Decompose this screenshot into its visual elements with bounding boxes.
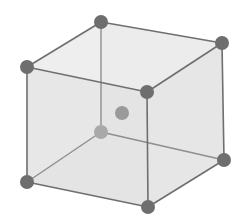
corner-atom-bottom-front-left [20,175,34,189]
corner-atom-top-back-left [94,15,108,29]
corner-atom-bottom-back-right [217,153,231,167]
corner-atom-top-front-right [140,85,154,99]
cube-edge [147,92,148,207]
center-atom-group [115,106,129,120]
body-center-atom [115,106,129,120]
hidden-corner-atom [94,125,108,139]
cube-svg [0,0,245,222]
corner-atom-top-back-right [215,36,229,50]
corner-atom-top-front-left [20,60,34,74]
corner-atom-bottom-front-right [141,200,155,214]
bcc-unit-cell-diagram [0,0,245,222]
hidden-atoms [94,125,108,139]
